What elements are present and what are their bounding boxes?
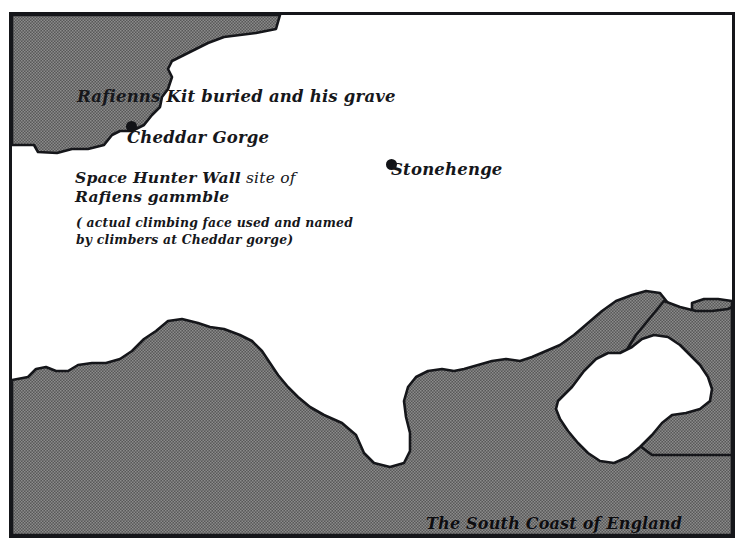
space-hunter-wall-rest-text: site of: [241, 169, 296, 187]
annotation-climbing-face-note: ( actual climbing face used and named by…: [76, 215, 353, 248]
map-page: Rafienns Kit buried and his grave Chedda…: [0, 0, 744, 554]
space-hunter-wall-line2-text: Rafiens gammble: [75, 187, 229, 206]
space-hunter-wall-bold-text: Space Hunter Wall: [75, 168, 241, 187]
climbing-note-line1: ( actual climbing face used and named: [76, 215, 353, 230]
climbing-note-line2: by climbers at Cheddar gorge): [76, 232, 293, 247]
annotation-cheddar-gorge: Cheddar Gorge: [127, 128, 269, 147]
annotation-stonehenge: Stonehenge: [391, 160, 503, 179]
map-frame: Rafienns Kit buried and his grave Chedda…: [9, 12, 735, 538]
map-caption: The South Coast of England: [426, 515, 682, 534]
annotation-space-hunter-wall: Space Hunter Wall site of Rafiens gammbl…: [75, 169, 296, 206]
annotation-rafienns-kit-grave: Rafienns Kit buried and his grave: [77, 87, 396, 106]
